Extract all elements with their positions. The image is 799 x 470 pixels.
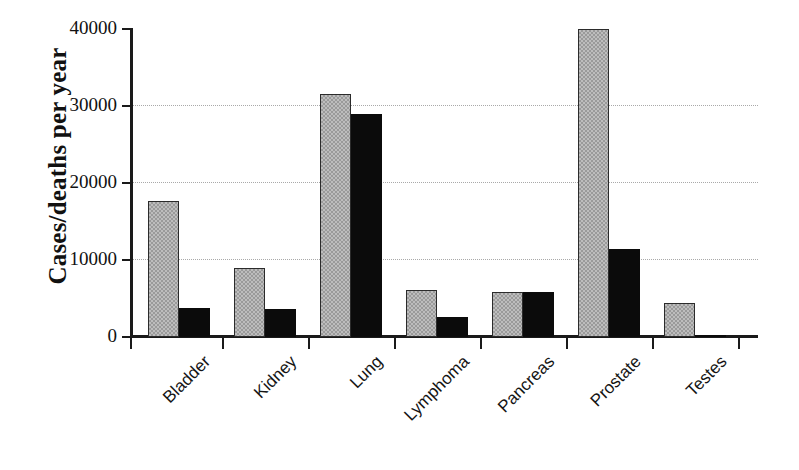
bar-lymphoma-cases xyxy=(406,290,437,337)
gridline xyxy=(133,105,758,107)
x-tick-mark xyxy=(652,338,654,349)
y-tick-label: 30000 xyxy=(70,94,118,116)
x-tick-mark xyxy=(308,338,310,349)
bar-chart-figure: Cases/deaths per year 010000200003000040… xyxy=(0,0,799,470)
y-tick-label: 10000 xyxy=(70,248,118,270)
x-category-label: Pancreas xyxy=(494,352,559,417)
gridline xyxy=(133,182,758,184)
x-category-label: Lung xyxy=(346,352,387,393)
x-tick-mark xyxy=(738,338,740,349)
bar-lymphoma-deaths xyxy=(437,317,468,337)
x-category-label: Bladder xyxy=(160,352,216,408)
y-tick-mark xyxy=(122,28,131,30)
bar-lung-deaths xyxy=(351,114,382,337)
y-tick-mark xyxy=(122,182,131,184)
gridline xyxy=(133,259,758,261)
bar-prostate-deaths xyxy=(609,249,640,337)
x-category-label: Prostate xyxy=(586,352,645,411)
bar-prostate-cases xyxy=(578,29,609,337)
x-category-label: Lymphoma xyxy=(400,352,473,425)
bar-kidney-cases xyxy=(234,268,265,337)
x-tick-mark xyxy=(566,338,568,349)
x-category-label: Testes xyxy=(682,352,731,401)
x-tick-mark xyxy=(480,338,482,349)
bar-lung-cases xyxy=(320,94,351,337)
bar-testes-cases xyxy=(664,303,695,337)
bar-bladder-cases xyxy=(148,201,179,337)
bar-bladder-deaths xyxy=(179,308,210,337)
bar-kidney-deaths xyxy=(265,309,296,337)
bar-pancreas-cases xyxy=(492,292,523,337)
y-tick-label: 20000 xyxy=(70,171,118,193)
bar-pancreas-deaths xyxy=(523,292,554,337)
y-tick-mark xyxy=(122,105,131,107)
y-tick-label: 40000 xyxy=(70,17,118,39)
x-tick-mark xyxy=(130,338,132,349)
y-tick-mark xyxy=(122,259,131,261)
plot-area: 010000200003000040000 xyxy=(130,28,758,337)
x-category-label: Kidney xyxy=(250,352,301,403)
x-tick-mark xyxy=(222,338,224,349)
x-axis-category-labels: BladderKidneyLungLymphomaPancreasProstat… xyxy=(0,352,799,470)
y-tick-label: 0 xyxy=(108,325,118,347)
x-tick-mark xyxy=(394,338,396,349)
y-axis-title: Cases/deaths per year xyxy=(44,16,72,316)
bar-testes-deaths xyxy=(695,335,726,337)
